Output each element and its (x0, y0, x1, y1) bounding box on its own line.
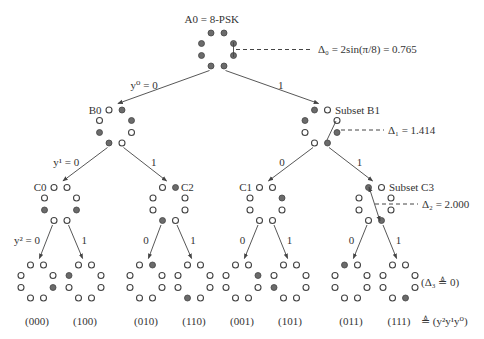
signal-point-empty (41, 295, 47, 301)
signal-point-empty (412, 273, 418, 279)
signal-point-filled (160, 218, 166, 224)
signal-point-empty (356, 195, 362, 201)
signal-point-empty (64, 218, 70, 224)
edge-label-B0-C2: 1 (151, 156, 157, 168)
signal-point-filled (119, 107, 125, 113)
signal-point-empty (366, 218, 372, 224)
signal-point-empty (89, 262, 95, 268)
signal-point-empty (89, 295, 95, 301)
delta3-annotation: (Δ₃ ≜ 0) (421, 276, 460, 289)
edge-label-C2-110: 1 (190, 234, 196, 246)
signal-point-empty (246, 295, 252, 301)
signal-point-empty (137, 262, 143, 268)
signal-point-empty (294, 295, 300, 301)
node-label-000: (000) (25, 315, 49, 328)
signal-point-filled (66, 273, 72, 279)
signal-point-empty (182, 195, 188, 201)
signal-point-empty (356, 207, 362, 213)
edge-label-C0-000: y² = 0 (14, 234, 41, 246)
signal-point-filled (199, 53, 205, 59)
signal-point-filled (334, 130, 340, 136)
signal-point-empty (332, 273, 338, 279)
signal-point-filled (302, 118, 308, 124)
signal-point-filled (173, 185, 179, 191)
node-label-C1: C1 (239, 181, 252, 193)
signal-point-empty (257, 185, 263, 191)
signal-point-filled (42, 207, 48, 213)
signal-point-empty (312, 140, 318, 146)
constellation-011: (011) (332, 262, 370, 328)
signal-point-filled (208, 63, 214, 69)
signal-point-empty (50, 273, 56, 279)
signal-point-empty (150, 207, 156, 213)
edge-C0-000 (39, 225, 52, 259)
signal-point-empty (390, 262, 396, 268)
signal-point-empty (127, 285, 133, 291)
signal-point-empty (159, 285, 165, 291)
signal-point-empty (98, 273, 104, 279)
signal-point-filled (185, 295, 191, 301)
node-label-C0: C0 (34, 181, 47, 193)
edge-label-B1-C3: 1 (357, 156, 363, 168)
constellation-101: (101) (271, 262, 309, 328)
signal-point-empty (223, 285, 229, 291)
signal-point-empty (28, 262, 34, 268)
signal-point-filled (325, 140, 331, 146)
signal-point-filled (74, 207, 80, 213)
signal-point-empty (390, 295, 396, 301)
signal-point-empty (97, 118, 103, 124)
signal-point-empty (129, 130, 135, 136)
signal-point-empty (332, 285, 338, 291)
signal-point-empty (279, 207, 285, 213)
node-label-011: (011) (339, 315, 363, 328)
node-label-100: (100) (73, 315, 97, 328)
constellation-B1: Subset B1 (302, 104, 380, 147)
signal-point-empty (198, 262, 204, 268)
signal-point-filled (199, 41, 205, 47)
edge-A0-B1 (226, 71, 319, 104)
tree-edges (39, 71, 396, 259)
signal-point-empty (207, 285, 213, 291)
constellation-A0: A0 = 8-PSK (185, 13, 240, 70)
signal-point-empty (403, 262, 409, 268)
edge-C2-010 (148, 225, 161, 259)
node-label-C2: C2 (181, 181, 194, 193)
delta2-annotation: Δ₂ = 2.000 (422, 198, 470, 210)
signal-point-empty (66, 285, 72, 291)
constellation-C0: C0 (34, 181, 80, 224)
signal-point-filled (50, 285, 56, 291)
edge-label-A0-B1: 1 (278, 79, 284, 91)
constellation-001: (001) (223, 262, 261, 328)
signal-point-filled (97, 130, 103, 136)
constellation-B0: B0 (89, 104, 135, 147)
edge-B1-C1 (268, 148, 313, 182)
constellation-010: (010) (127, 262, 165, 328)
signal-point-empty (51, 185, 57, 191)
signal-point-empty (255, 285, 261, 291)
signal-point-empty (223, 273, 229, 279)
signal-point-empty (76, 262, 82, 268)
constellation-111: (111) (380, 262, 418, 328)
edge-B1-C3 (329, 148, 373, 182)
node-label-A0: A0 = 8-PSK (185, 13, 240, 25)
signal-point-empty (364, 273, 370, 279)
signal-point-empty (150, 295, 156, 301)
edge-label-B1-C1: 0 (279, 156, 285, 168)
signal-point-empty (64, 185, 70, 191)
constellation-000: (000) (18, 262, 56, 328)
signal-point-filled (312, 107, 318, 113)
node-label-B1: Subset B1 (335, 104, 380, 116)
signal-point-filled (342, 262, 348, 268)
signal-point-empty (198, 295, 204, 301)
set-partitioning-diagram: y⁰ = 01y¹ = 0101y² = 01010101 A0 = 8-PSK… (0, 0, 484, 339)
signal-point-empty (175, 285, 181, 291)
constellation-nodes: A0 = 8-PSKB0Subset B1C0C2C1Subset C3(000… (18, 13, 434, 329)
edge-B0-C2 (124, 148, 167, 182)
signal-point-empty (388, 207, 394, 213)
signal-point-empty (257, 218, 263, 224)
signal-point-filled (208, 30, 214, 36)
signal-point-empty (119, 140, 125, 146)
signal-point-filled (271, 285, 277, 291)
constellation-C1: C1 (239, 181, 285, 224)
node-label-010: (010) (134, 315, 158, 328)
